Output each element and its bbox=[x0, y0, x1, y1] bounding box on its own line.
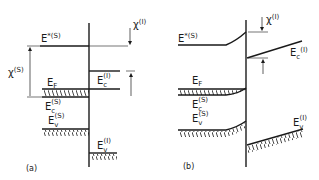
label-chi-i: χ(I) bbox=[266, 13, 280, 25]
panel-a: E*(S) χ(S) χ(I) EF Ec(I) Ec(S) Ev(S) Ev(… bbox=[8, 18, 147, 173]
caption-a: (a) bbox=[26, 164, 37, 173]
filled-states-hatch bbox=[180, 89, 245, 95]
label-e-v-i: Ev(I) bbox=[97, 137, 111, 154]
label-e-v-i: Ev(I) bbox=[293, 114, 307, 131]
label-e-f: EF bbox=[47, 77, 57, 90]
filled-states-hatch bbox=[44, 90, 89, 96]
e-v-s-hatch bbox=[44, 130, 89, 136]
panel-b: E*(S) χ(I) Ec(I) EF Ec(S) Ev(S) Ev(I) (b… bbox=[178, 13, 308, 171]
label-e-star-s: E*(S) bbox=[41, 32, 61, 44]
label-chi-i: χ(I) bbox=[133, 18, 147, 30]
caption-b: (b) bbox=[183, 162, 194, 171]
band-diagram: E*(S) χ(S) χ(I) EF Ec(I) Ec(S) Ev(S) Ev(… bbox=[0, 0, 319, 180]
label-e-c-i: Ec(I) bbox=[290, 46, 308, 61]
label-e-f: EF bbox=[192, 75, 202, 88]
e-v-i-hatch bbox=[248, 130, 303, 153]
label-e-v-s: Ev(S) bbox=[192, 110, 209, 127]
label-chi-s: χ(S) bbox=[8, 66, 24, 78]
e-v-i-hatch bbox=[91, 154, 117, 160]
label-e-star-s: E*(S) bbox=[178, 32, 198, 44]
label-e-c-i: Ec(I) bbox=[97, 72, 111, 89]
label-e-v-s: Ev(S) bbox=[48, 112, 65, 129]
